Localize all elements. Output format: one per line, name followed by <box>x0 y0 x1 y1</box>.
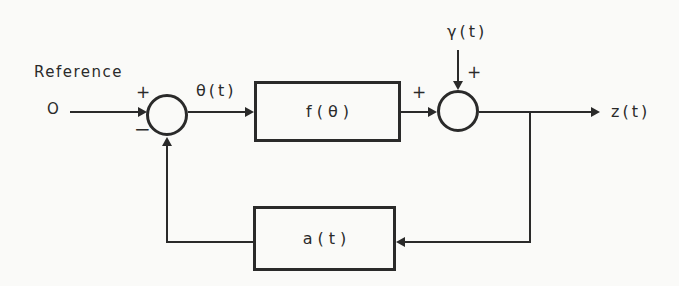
feedback-tap-line <box>529 112 531 243</box>
forward-block-label: f(θ) <box>301 102 354 121</box>
input-line <box>70 111 139 113</box>
forward-output-line <box>401 111 430 113</box>
feedback-block: a(t) <box>253 206 396 271</box>
arrow-right-icon <box>428 107 437 117</box>
summing-junction-2 <box>437 90 479 132</box>
feedback-line-right <box>404 241 531 243</box>
reference-label: Reference <box>34 63 123 81</box>
sum2-top-plus-sign: + <box>467 64 481 81</box>
output-label: z(t) <box>611 102 650 121</box>
sum1-minus-sign: − <box>134 119 151 139</box>
feedback-block-label: a(t) <box>298 229 352 248</box>
sum1-plus-sign: + <box>136 84 150 101</box>
sum2-left-plus-sign: + <box>412 84 426 101</box>
arrow-right-icon <box>591 107 600 117</box>
arrow-down-icon <box>453 81 463 90</box>
output-line <box>479 111 592 113</box>
disturbance-line <box>457 50 459 83</box>
error-signal-line <box>188 111 247 113</box>
summing-junction-1 <box>146 94 188 136</box>
error-signal-label: θ(t) <box>196 81 237 100</box>
reference-input-value: O <box>47 100 59 118</box>
disturbance-label: γ(t) <box>447 22 487 41</box>
block-diagram: Reference O + − θ(t) f(θ) + γ(t) + z(t) … <box>0 0 679 286</box>
forward-block: f(θ) <box>254 81 401 142</box>
arrow-right-icon <box>245 107 254 117</box>
arrow-up-icon <box>162 137 172 146</box>
feedback-line-left <box>167 241 253 243</box>
arrow-left-icon <box>396 237 405 247</box>
feedback-return-line <box>166 144 168 243</box>
